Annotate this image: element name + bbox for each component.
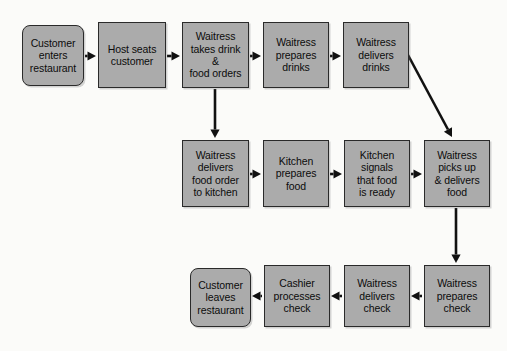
node-label-cashier-processes: Cashier processes check: [274, 277, 321, 314]
node-label-waitress-delivers-check: Waitress delivers check: [357, 277, 397, 314]
node-picks-up-delivers[interactable]: Waitress picks up & delivers food: [424, 140, 490, 207]
node-kitchen-prepares[interactable]: Kitchen prepares food: [263, 140, 329, 207]
node-label-customer-enters: Customer enters restaurant: [30, 37, 76, 74]
node-delivers-drinks[interactable]: Waitress delivers drinks: [343, 22, 409, 88]
node-delivers-food-order[interactable]: Waitress delivers food order to kitchen: [182, 140, 249, 207]
node-waitress-delivers-check[interactable]: Waitress delivers check: [344, 265, 410, 327]
node-prepares-drinks[interactable]: Waitress prepares drinks: [263, 22, 329, 88]
node-label-kitchen-signals: Kitchen signals that food is ready: [357, 149, 397, 199]
node-label-delivers-drinks: Waitress delivers drinks: [356, 36, 396, 73]
node-waitress-prepares-check[interactable]: Waitress prepares check: [424, 265, 490, 327]
node-label-prepares-drinks: Waitress prepares drinks: [276, 36, 317, 73]
node-takes-orders[interactable]: Waitress takes drink & food orders: [182, 22, 249, 88]
node-customer-leaves[interactable]: Customer leaves restaurant: [190, 268, 251, 327]
node-label-delivers-food-order: Waitress delivers food order to kitchen: [192, 149, 239, 199]
node-label-kitchen-prepares: Kitchen prepares food: [276, 155, 317, 192]
node-label-picks-up-delivers: Waitress picks up & delivers food: [434, 149, 479, 199]
node-host-seats[interactable]: Host seats customer: [98, 22, 166, 88]
node-cashier-processes[interactable]: Cashier processes check: [264, 265, 330, 327]
edge-picks-up-to-prepares-check: [444, 196, 468, 275]
node-label-customer-leaves: Customer leaves restaurant: [197, 279, 243, 316]
node-label-waitress-prepares-check: Waitress prepares check: [437, 277, 478, 314]
node-kitchen-signals[interactable]: Kitchen signals that food is ready: [344, 140, 410, 207]
node-label-host-seats: Host seats customer: [108, 43, 157, 68]
node-label-takes-orders: Waitress takes drink & food orders: [186, 30, 245, 80]
flowchart-canvas: Customer enters restaurantHost seats cus…: [0, 0, 507, 351]
node-customer-enters[interactable]: Customer enters restaurant: [22, 25, 84, 86]
